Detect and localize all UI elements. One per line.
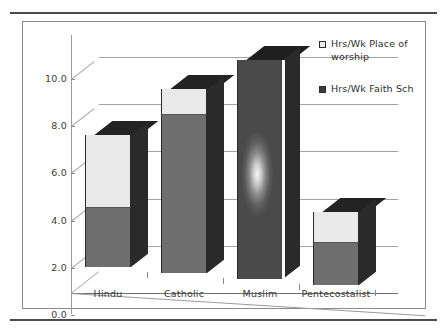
bottom-divider-rule (10, 319, 437, 321)
bar-column-catholic[interactable] (161, 89, 207, 273)
bar-segment-faith-sch[interactable] (161, 115, 207, 273)
bar-top-face (171, 75, 234, 89)
plot-area: 0.02.04.06.08.010.0 HinduCatholicMuslimP… (23, 22, 425, 308)
bar-column-hindu[interactable] (85, 135, 131, 267)
chart-legend: Hrs/Wk Place of worship Hrs/Wk Faith Sch (319, 38, 423, 116)
bar-column-pentecostalist[interactable] (313, 212, 359, 285)
legend-item-faith-sch[interactable]: Hrs/Wk Faith Sch (319, 83, 423, 96)
legend-item-label: Hrs/Wk Faith Sch (331, 83, 414, 96)
bar-side-face (207, 76, 224, 273)
chart-page: 0.02.04.06.08.010.0 HinduCatholicMuslimP… (0, 0, 447, 334)
bar-top-face (323, 198, 386, 212)
legend-item-label: Hrs/Wk Place of worship (331, 38, 423, 63)
bar-side-face (283, 46, 300, 279)
bar-edge-highlight (282, 60, 285, 279)
legend-hollow-square-icon (319, 41, 326, 48)
bar-top-face (95, 121, 158, 135)
bar-side-face (131, 122, 148, 267)
bar-column-muslim[interactable] (237, 60, 283, 279)
legend-item-place-of-worship[interactable]: Hrs/Wk Place of worship (319, 38, 423, 63)
x-axis-tick-mark (299, 284, 300, 290)
bar-segment-place-of-worship[interactable] (313, 212, 359, 243)
x-axis-tick-mark (147, 272, 148, 278)
x-axis-tick-mark (375, 290, 376, 296)
x-axis-labels: HinduCatholicMuslimPentecostalist (23, 281, 425, 299)
x-axis-tick-label: Catholic (149, 288, 219, 299)
bar-segment-faith-sch[interactable] (313, 243, 359, 285)
top-divider-rule (10, 12, 437, 14)
x-axis-tick-label: Muslim (225, 288, 295, 299)
x-axis-tick-label: Pentecostalist (301, 288, 371, 299)
bar-segment-place-of-worship[interactable] (161, 89, 207, 115)
x-axis-tick-mark (223, 278, 224, 284)
bar-segment-faith-sch[interactable] (237, 60, 283, 279)
x-axis-tick-label: Hindu (73, 288, 143, 299)
legend-filled-square-icon (319, 86, 326, 93)
bar-segment-faith-sch[interactable] (85, 208, 131, 267)
y-axis-tick-label: 0.0 (23, 309, 67, 320)
bar-side-face (359, 199, 376, 285)
bar-top-face (247, 46, 310, 60)
y-axis-tick-mark (71, 315, 75, 316)
chart-frame: 0.02.04.06.08.010.0 HinduCatholicMuslimP… (22, 21, 426, 309)
bar-segment-place-of-worship[interactable] (85, 135, 131, 208)
